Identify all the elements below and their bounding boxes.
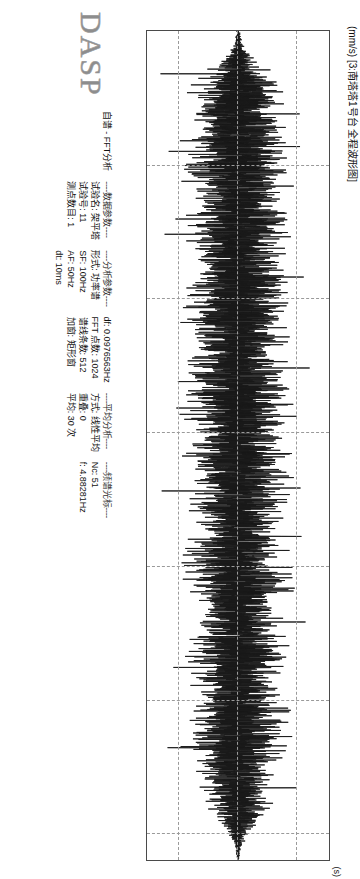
x-axis-minor-tick [146, 499, 147, 500]
grid-line-vertical [147, 566, 329, 567]
x-axis-tick-mark [146, 432, 147, 433]
parameter-columns: 自谱 - FFT分析----数据参数----试验名: 架平塔试验号: 11测点数… [53, 111, 112, 873]
parameter-column: df: 0.0976563HzFFT 点数: 1024谱线条数: 512加窗: … [65, 317, 112, 393]
parameter-row: 方式: 线性平均 [89, 393, 100, 452]
x-axis-tick-mark [146, 566, 147, 567]
parameter-row: SF: 100Hz [77, 250, 88, 306]
y-axis-tick-mark [237, 30, 238, 31]
parameter-row: AF: 50Hz [65, 250, 76, 306]
x-axis-minor-tick [146, 365, 147, 366]
x-axis-unit-label: (s) [332, 867, 342, 878]
parameter-row: 形式: 功率谱 [89, 250, 100, 306]
x-axis-tick-mark [146, 700, 147, 701]
y-axis-tick-mark [296, 30, 297, 31]
parameter-section-heading: ----平均分析---- [101, 393, 112, 452]
parameter-column: ----分析参数----形式: 功率谱SF: 100HzAF: 50Hzdt: … [53, 250, 112, 316]
rotated-page-canvas: (mm/s) [3:南塔塔1号台 全程波形图] (s) -10105010015… [0, 0, 360, 879]
parameter-row: 平均: 30 次 [65, 393, 76, 452]
grid-line-vertical [147, 298, 329, 299]
parameter-row: f: 4.88281Hz [77, 462, 88, 518]
parameter-column: 自谱 - FFT分析 [101, 111, 112, 182]
parameter-row: 测点数目: 1 [65, 181, 76, 240]
parameter-column: ----频谱光标----Nc: 51f: 4.88281Hz [77, 462, 112, 528]
x-axis-minor-tick [146, 633, 147, 634]
grid-line-horizontal [178, 31, 179, 860]
grid-line-vertical [147, 432, 329, 433]
dasp-logo: DASP [76, 10, 112, 111]
x-axis-minor-tick [146, 766, 147, 767]
parameter-row: 谱线条数: 512 [77, 317, 88, 383]
y-axis-tick-mark [178, 30, 179, 31]
x-axis-tick-mark [146, 31, 147, 32]
app-title: 自谱 - FFT分析 [101, 111, 112, 172]
grid-line-vertical [147, 165, 329, 166]
x-axis-minor-tick [146, 232, 147, 233]
parameter-row: FFT 点数: 1024 [89, 317, 100, 383]
parameter-row: 加窗: 矩形窗 [65, 317, 76, 383]
parameter-row: 试验名: 架平塔 [89, 181, 100, 240]
parameter-row: 重叠: 0 [77, 393, 88, 452]
grid-line-vertical [147, 833, 329, 834]
waveform-trace [147, 31, 329, 860]
report-canvas: (mm/s) [3:南塔塔1号台 全程波形图] (s) -10105010015… [0, 0, 360, 879]
grid-line-horizontal [296, 31, 297, 860]
parameter-section-heading: ----分析参数---- [101, 250, 112, 306]
parameter-row: df: 0.0976563Hz [101, 317, 112, 383]
x-axis-minor-tick [146, 98, 147, 99]
grid-line-horizontal [237, 31, 238, 860]
grid-line-vertical [147, 700, 329, 701]
parameter-row: Nc: 51 [89, 462, 100, 518]
waveform-chart: (mm/s) [3:南塔塔1号台 全程波形图] (s) -10105010015… [116, 0, 360, 879]
parameter-column: ----数据参数----试验名: 架平塔试验号: 11测点数目: 1 [65, 181, 112, 250]
parameter-row: dt: 10ms [53, 250, 64, 306]
parameter-header: DASP 自谱 - FFT分析----数据参数----试验名: 架平塔试验号: … [0, 0, 116, 879]
x-axis-tick-mark [146, 298, 147, 299]
parameter-column: ----平均分析----方式: 线性平均重叠: 0平均: 30 次 [65, 393, 112, 462]
chart-title: (mm/s) [3:南塔塔1号台 全程波形图] [346, 26, 358, 182]
plot-frame: -101050100150200250300 [146, 30, 330, 861]
x-axis-tick-mark [146, 833, 147, 834]
parameter-section-heading: ----数据参数---- [101, 181, 112, 240]
parameter-section-heading: ----频谱光标---- [101, 462, 112, 518]
waveform-path [161, 31, 310, 860]
x-axis-tick-mark [146, 165, 147, 166]
parameter-row: 试验号: 11 [77, 181, 88, 240]
